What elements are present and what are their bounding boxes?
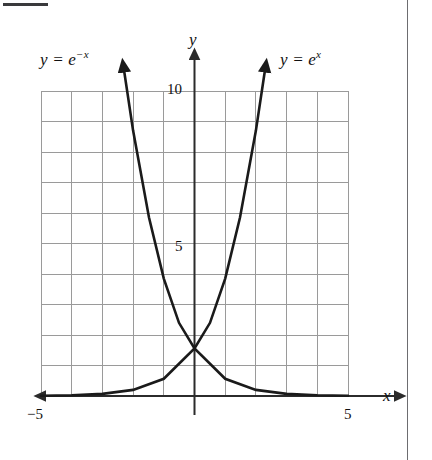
curve-label-exp-positive-lhs: y = e [280, 50, 316, 69]
x-tick-label-neg5: −5 [27, 406, 43, 423]
curve-label-exp-negative-lhs: y = e [40, 50, 76, 69]
curve-label-exp-positive: y = ex [280, 50, 321, 70]
curve-label-exp-negative-exponent: −x [76, 48, 89, 60]
figure-container: y = e−x y = ex y x 10 5 −5 5 [0, 0, 432, 460]
y-tick-label-5: 5 [175, 238, 183, 255]
x-tick-label-5: 5 [344, 406, 352, 423]
y-tick-label-10: 10 [167, 81, 182, 98]
y-axis-label: y [189, 30, 197, 50]
curve-label-exp-positive-exponent: x [316, 48, 321, 60]
curve-label-exp-negative: y = e−x [40, 50, 89, 70]
x-axis-label: x [383, 386, 391, 406]
